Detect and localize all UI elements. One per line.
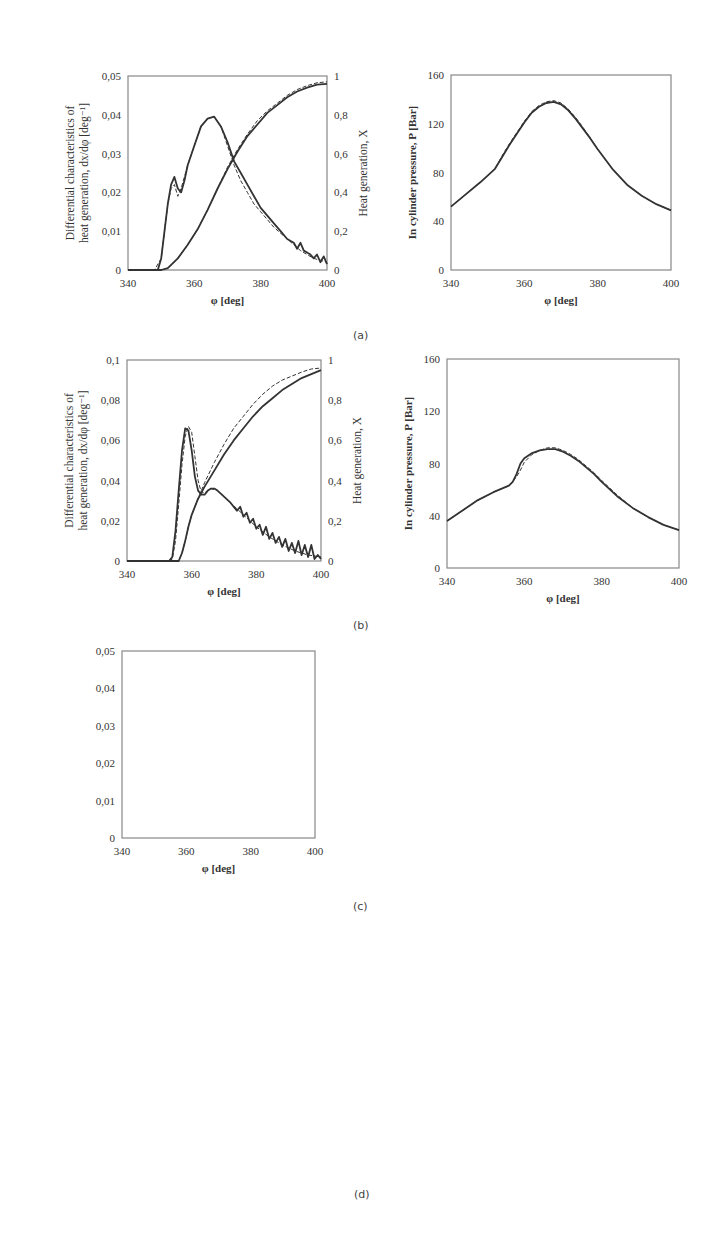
chart-b-heat-release: 340360380400φ [deg]00,020,040,060,080,10… [63,354,364,597]
y-tick-label: 0,04 [102,109,122,121]
y-tick-label: 0,04 [101,475,121,487]
y-tick-label: 120 [424,405,441,417]
y-tick-label: 0,03 [102,148,122,160]
y2-tick-label: 0,4 [328,475,342,487]
y-axis-label: In cylinder pressure, P [Bar] [402,397,414,531]
y-tick-label: 0,05 [96,645,116,657]
y2-tick-label: 0,4 [334,186,348,198]
plot-frame [127,360,321,561]
x-tick-label: 380 [242,845,259,857]
y2-tick-label: 0 [334,264,340,276]
y-axis-label-line2: heat generation, dx/dφ [deg⁻¹] [77,390,90,530]
figure: 340360380400φ [deg]00,010,020,030,040,05… [0,0,723,1253]
x-tick-label: 360 [516,575,533,587]
y2-tick-label: 0 [328,555,334,567]
x-tick-label: 380 [252,277,269,289]
y-axis-label-line1: Differential characteristics of [63,393,75,528]
x-tick-label: 340 [439,575,456,587]
y-tick-label: 0,02 [102,186,121,198]
y-tick-label: 120 [428,118,445,130]
y-tick-label: 0,01 [102,225,121,237]
panel-label-d: (d) [354,1188,370,1201]
y2-tick-label: 1 [334,70,340,82]
chart-c-heat-release: 340360380400φ [deg]00,010,020,030,040,05 [96,645,324,874]
y-tick-label: 40 [433,215,445,227]
y2-tick-label: 0,8 [334,109,348,121]
series-x-measured [127,370,321,561]
x-tick-label: 340 [120,277,137,289]
y-tick-label: 80 [433,167,445,179]
x-tick-label: 360 [516,277,533,289]
panel-label-a: (a) [353,329,368,342]
x-tick-label: 400 [663,277,680,289]
y2-tick-label: 0,6 [334,148,348,160]
y-tick-label: 0,06 [101,434,121,446]
x-tick-label: 400 [313,568,330,580]
y2-tick-label: 0,8 [328,394,342,406]
y-tick-label: 0,02 [101,515,120,527]
x-tick-label: 340 [443,277,460,289]
y2-axis-label: Heat generation, X [357,129,370,217]
panel-label-b: (b) [353,619,369,632]
x-axis-label: φ [deg] [202,862,235,874]
panel-label-c: (c) [353,900,368,913]
plot-frame [122,651,315,838]
x-axis-label: φ [deg] [207,585,240,597]
y-tick-label: 0,03 [96,720,116,732]
y2-tick-label: 0,6 [328,434,342,446]
x-tick-label: 360 [183,568,200,580]
chart-b-pressure: 340360380400φ [deg]04080120160In cylinde… [402,353,688,604]
plot-frame [447,359,679,568]
y-tick-label: 0 [110,832,116,844]
series-measured [447,449,679,530]
y-tick-label: 0 [435,562,441,574]
series-model [447,448,679,530]
y-tick-label: 160 [424,353,441,365]
y-tick-label: 40 [429,510,441,522]
y-axis-label: In cylinder pressure, P [Bar] [406,106,418,240]
series-dx-d-measured [128,117,327,270]
x-tick-label: 380 [248,568,265,580]
y2-tick-label: 0,2 [334,225,348,237]
y2-axis-label: Heat generation, X [351,416,364,504]
y-axis-label-line1: Differential characteristics of [64,106,76,241]
chart-a-heat-release: 340360380400φ [deg]00,010,020,030,040,05… [64,70,370,306]
y-tick-label: 80 [429,458,441,470]
y-tick-label: 0,08 [101,394,121,406]
x-axis-label: φ [deg] [211,294,244,306]
y-tick-label: 0 [439,264,445,276]
x-tick-label: 360 [178,845,195,857]
x-tick-label: 340 [114,845,131,857]
y-tick-label: 0,1 [106,354,120,366]
y2-tick-label: 1 [328,354,334,366]
y-axis-label-line2: heat generation, dx/dφ [deg⁻¹] [78,103,91,243]
x-tick-label: 380 [589,277,606,289]
x-tick-label: 400 [671,575,688,587]
x-tick-label: 360 [186,277,203,289]
y-tick-label: 0 [115,555,121,567]
series-dx-d-measured [127,428,321,561]
plot-frame [128,76,327,270]
y-tick-label: 160 [428,69,445,81]
y-tick-label: 0,05 [102,70,122,82]
x-tick-label: 340 [119,568,136,580]
y-tick-label: 0,01 [96,795,115,807]
series-x-measured [128,84,327,270]
series-dx-d-model [127,426,321,561]
x-tick-label: 380 [593,575,610,587]
x-tick-label: 400 [307,845,324,857]
x-axis-label: φ [deg] [544,294,577,306]
chart-a-pressure: 340360380400φ [deg]04080120160In cylinde… [406,69,680,306]
series-measured [451,102,671,211]
series-x-model [128,82,327,270]
y-tick-label: 0,02 [96,757,115,769]
y-tick-label: 0 [116,264,122,276]
y-tick-label: 0,04 [96,682,116,694]
series-x-model [127,368,321,561]
y2-tick-label: 0,2 [328,515,342,527]
x-tick-label: 400 [319,277,336,289]
x-axis-label: φ [deg] [546,592,579,604]
